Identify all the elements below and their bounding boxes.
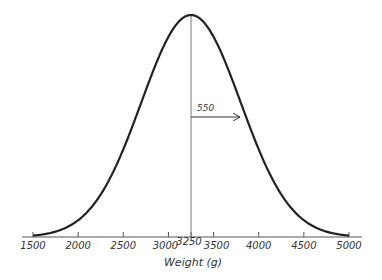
- x-tick-label: 1500: [20, 240, 45, 251]
- x-tick-label: 2500: [111, 240, 136, 251]
- sd-label: 550: [197, 103, 214, 113]
- x-tick-label: 2000: [65, 240, 90, 251]
- x-tick-label: 5000: [336, 240, 361, 251]
- x-tick-label: 3000: [153, 240, 178, 251]
- x-tick-label: 3500: [204, 240, 229, 251]
- x-tick-label: 4500: [291, 240, 316, 251]
- x-axis-title: Weight (g): [164, 256, 222, 269]
- normal-distribution-chart: 150020002500300032503500400045005000 550…: [0, 0, 382, 280]
- x-tick-label: 4000: [246, 240, 271, 251]
- x-tick-label: 3250: [176, 236, 201, 247]
